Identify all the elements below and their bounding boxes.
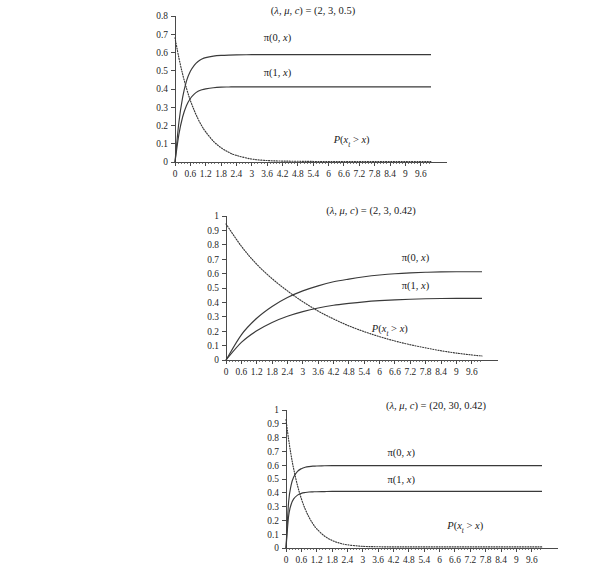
x-tick-label: 3 (300, 367, 305, 377)
y-tick-label: 0.1 (267, 530, 279, 540)
x-tick-label: 6.6 (389, 367, 401, 377)
x-tick-label: 0.6 (296, 555, 308, 565)
curve-label-tail: P(xt > x) (446, 520, 483, 535)
y-tick-label: 0.2 (207, 327, 219, 337)
x-tick-label: 3.6 (261, 169, 273, 179)
y-tick-label: 0.3 (207, 312, 219, 322)
curve-label-tail: P(xt > x) (371, 323, 408, 338)
x-tick-label: 9 (454, 367, 459, 377)
x-tick-label: 6 (437, 555, 442, 565)
y-tick-label: 0.4 (267, 488, 279, 498)
curve-label-pi1: π(1, x) (387, 474, 415, 486)
x-tick-label: 0 (224, 367, 229, 377)
x-tick-label: 9.6 (415, 169, 427, 179)
x-tick-label: 5.4 (358, 367, 370, 377)
x-tick-label: 6.6 (338, 169, 350, 179)
x-tick-label: 9 (403, 169, 408, 179)
y-tick-label: 1 (274, 405, 279, 415)
chart-title: (λ, μ, c) = (2, 3, 0.42) (326, 205, 416, 217)
y-tick-label: 0.5 (207, 283, 219, 293)
x-tick-label: 4.8 (403, 555, 415, 565)
x-tick-label: 9 (514, 555, 519, 565)
y-tick-label: 0.8 (156, 11, 168, 21)
x-tick-label: 3.6 (312, 367, 324, 377)
chart-title: (λ, μ, c) = (2, 3, 0.5) (271, 5, 356, 17)
y-tick-label: 0 (163, 157, 168, 167)
x-tick-label: 4.2 (277, 169, 289, 179)
y-tick-label: 0.8 (267, 433, 279, 443)
series-curve (286, 491, 542, 548)
chart-2-svg: (λ, μ, c) = (2, 3, 0.42)00.10.20.30.40.5… (186, 202, 516, 394)
y-tick-label: 0.5 (156, 66, 168, 76)
y-tick-label: 0.4 (207, 298, 219, 308)
x-tick-label: 1.2 (200, 169, 212, 179)
x-tick-label: 2.4 (231, 169, 243, 179)
y-tick-label: 0.6 (267, 461, 279, 471)
x-tick-label: 9.6 (526, 555, 538, 565)
x-tick-label: 7.8 (420, 367, 432, 377)
x-tick-label: 4.2 (388, 555, 400, 565)
y-tick-label: 0 (274, 543, 279, 553)
x-tick-label: 2.4 (282, 367, 294, 377)
x-tick-label: 1.2 (251, 367, 263, 377)
x-tick-label: 0.6 (185, 169, 197, 179)
x-tick-label: 0 (173, 169, 178, 179)
x-tick-label: 4.8 (292, 169, 304, 179)
y-tick-label: 0.1 (207, 341, 219, 351)
curve-label-pi0: π(0, x) (264, 32, 292, 44)
x-tick-label: 0.6 (236, 367, 248, 377)
curve-label-pi1: π(1, x) (402, 280, 430, 292)
x-tick-label: 3 (249, 169, 254, 179)
chart-panel-1: (λ, μ, c) = (2, 3, 0.5)00.10.20.30.40.50… (135, 2, 465, 197)
x-tick-label: 6.6 (449, 555, 461, 565)
chart-panel-3: (λ, μ, c) = (20, 30, 0.42)00.10.20.30.40… (246, 400, 576, 580)
y-tick-label: 0.3 (156, 103, 168, 113)
curve-label-pi0: π(0, x) (387, 447, 415, 459)
x-tick-label: 8.4 (495, 555, 507, 565)
y-tick-label: 1 (214, 211, 219, 221)
x-tick-label: 0 (284, 555, 289, 565)
x-tick-label: 8.4 (435, 367, 447, 377)
x-tick-label: 3 (360, 555, 365, 565)
x-tick-label: 7.2 (353, 169, 365, 179)
x-tick-label: 6 (377, 367, 382, 377)
y-tick-label: 0.7 (156, 30, 168, 40)
y-tick-label: 0 (214, 355, 219, 365)
y-tick-label: 0.1 (156, 139, 168, 149)
y-tick-label: 0.6 (207, 269, 219, 279)
curve-label-pi1: π(1, x) (264, 67, 292, 79)
y-tick-label: 0.4 (156, 84, 168, 94)
x-tick-label: 1.8 (326, 555, 338, 565)
y-tick-label: 0.9 (267, 419, 279, 429)
y-tick-label: 0.7 (267, 447, 279, 457)
series-curve (175, 87, 431, 162)
x-tick-label: 1.2 (311, 555, 323, 565)
y-tick-label: 0.3 (267, 502, 279, 512)
y-tick-label: 0.2 (267, 516, 279, 526)
x-tick-label: 5.4 (307, 169, 319, 179)
x-tick-label: 8.4 (384, 169, 396, 179)
x-tick-label: 5.4 (418, 555, 430, 565)
y-tick-label: 0.7 (207, 255, 219, 265)
x-tick-label: 3.6 (372, 555, 384, 565)
x-tick-label: 4.2 (328, 367, 340, 377)
y-tick-label: 0.9 (207, 226, 219, 236)
x-tick-label: 1.8 (266, 367, 278, 377)
y-tick-label: 0.5 (267, 474, 279, 484)
x-tick-label: 1.8 (215, 169, 227, 179)
x-tick-label: 7.8 (369, 169, 381, 179)
y-tick-label: 0.6 (156, 48, 168, 58)
chart-1-svg: (λ, μ, c) = (2, 3, 0.5)00.10.20.30.40.50… (135, 2, 465, 197)
series-curve (226, 272, 482, 360)
y-tick-label: 0.2 (156, 121, 168, 131)
x-tick-label: 4.8 (343, 367, 355, 377)
x-tick-label: 7.2 (404, 367, 416, 377)
series-curve (226, 224, 482, 356)
chart-panel-2: (λ, μ, c) = (2, 3, 0.42)00.10.20.30.40.5… (186, 202, 516, 394)
x-tick-label: 9.6 (466, 367, 478, 377)
curve-label-tail: P(xt > x) (333, 134, 370, 149)
x-tick-label: 7.8 (480, 555, 492, 565)
x-tick-label: 6 (326, 169, 331, 179)
chart-title: (λ, μ, c) = (20, 30, 0.42) (386, 400, 487, 412)
chart-3-svg: (λ, μ, c) = (20, 30, 0.42)00.10.20.30.40… (246, 400, 576, 580)
